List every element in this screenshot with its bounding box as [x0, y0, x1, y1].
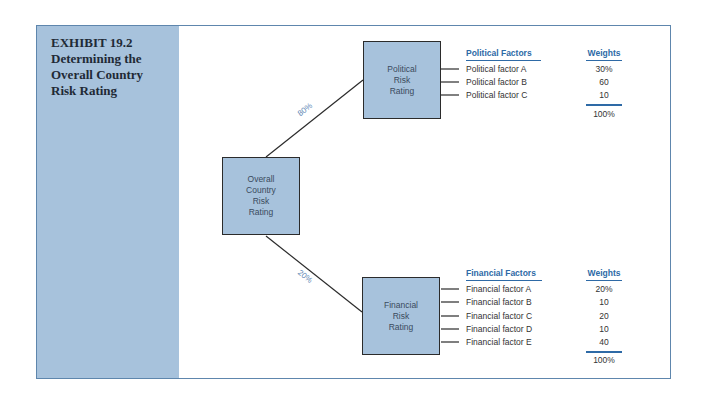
political-total-rule	[586, 104, 622, 106]
financial-factor-a: Financial factor A	[466, 284, 531, 294]
box-label-line: Political	[387, 64, 416, 75]
box-label-line: Rating	[387, 86, 416, 97]
political-weight-a: 30%	[586, 64, 622, 74]
financial-weight-b: 10	[586, 297, 622, 307]
box-label-line: Rating	[246, 207, 276, 218]
box-label-line: Rating	[384, 322, 418, 333]
political-factors-header: Political Factors	[466, 48, 541, 61]
financial-risk-box: Financial Risk Rating	[362, 277, 440, 355]
political-weight-total: 100%	[586, 109, 622, 119]
political-risk-box: Political Risk Rating	[363, 41, 441, 119]
financial-weight-e: 40	[586, 337, 622, 347]
financial-factor-c: Financial factor C	[466, 311, 532, 321]
political-factor-a: Political factor A	[466, 64, 526, 74]
political-factor-b: Political factor B	[466, 77, 527, 87]
financial-factor-b: Financial factor B	[466, 297, 532, 307]
box-label-line: Risk	[246, 196, 276, 207]
financial-total-rule	[586, 351, 622, 353]
box-label-line: Financial	[384, 300, 418, 311]
financial-weight-d: 10	[586, 324, 622, 334]
box-label-line: Overall	[246, 174, 276, 185]
political-weight-b: 60	[586, 77, 622, 87]
box-label-line: Country	[246, 185, 276, 196]
financial-weight-a: 20%	[586, 284, 622, 294]
political-weights-header: Weights	[586, 48, 622, 61]
political-weight-c: 10	[586, 90, 622, 100]
financial-weight-c: 20	[586, 311, 622, 321]
financial-factors-header: Financial Factors	[466, 268, 542, 281]
financial-weight-total: 100%	[586, 355, 622, 365]
box-label-line: Risk	[387, 75, 416, 86]
financial-weights-header: Weights	[586, 268, 622, 281]
political-factor-c: Political factor C	[466, 90, 527, 100]
financial-factor-e: Financial factor E	[466, 337, 532, 347]
financial-factor-d: Financial factor D	[466, 324, 532, 334]
overall-risk-box: Overall Country Risk Rating	[222, 157, 300, 235]
box-label-line: Risk	[384, 311, 418, 322]
